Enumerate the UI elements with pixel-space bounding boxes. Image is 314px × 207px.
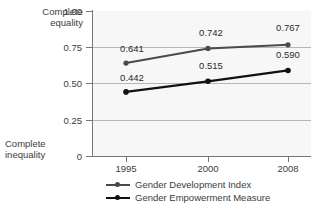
- y-tick-mark-025: [86, 120, 93, 121]
- x-axis-line: [92, 156, 311, 157]
- y-tick-mark-050: [86, 83, 93, 84]
- x-tick-mark-2008: [288, 157, 289, 162]
- gridline-025: [93, 120, 311, 121]
- legend-marker-gem-icon: [106, 193, 130, 203]
- y-tick-mark-100: [86, 11, 93, 12]
- gdi-value-label-2008: 0.767: [266, 22, 310, 33]
- legend-label-gdi: Gender Development Index: [135, 179, 251, 190]
- y-tick-mark-0: [86, 156, 93, 157]
- line-chart-figure: Complete equality Complete inequality 1.…: [0, 0, 314, 207]
- x-tick-label-2000: 2000: [183, 163, 233, 174]
- gridline-050: [93, 83, 311, 84]
- legend-item-gender-development-index[interactable]: Gender Development Index: [106, 178, 314, 191]
- x-tick-mark-2000: [208, 157, 209, 162]
- legend-label-gem: Gender Empowerment Measure: [135, 192, 270, 203]
- y-tick-label-050: 0.50: [46, 78, 82, 89]
- gem-value-label-2000: 0.515: [189, 60, 233, 71]
- x-tick-mark-1995: [126, 157, 127, 162]
- y-tick-label-025: 0.25: [46, 115, 82, 126]
- y-tick-mark-075: [86, 47, 93, 48]
- legend: Gender Development Index Gender Empowerm…: [106, 178, 314, 204]
- x-tick-label-1995: 1995: [101, 163, 151, 174]
- legend-item-gender-empowerment-measure[interactable]: Gender Empowerment Measure: [106, 191, 314, 204]
- gdi-value-label-1995: 0.641: [110, 43, 154, 54]
- y-tick-label-100: 1.00: [46, 6, 82, 17]
- y-tick-label-0: 0: [46, 151, 82, 162]
- y-tick-label-075: 0.75: [46, 42, 82, 53]
- gdi-value-label-2000: 0.742: [189, 27, 233, 38]
- legend-marker-gdi-icon: [106, 180, 130, 190]
- gem-value-label-1995: 0.442: [110, 72, 154, 83]
- gem-value-label-2008: 0.590: [266, 49, 310, 60]
- x-tick-label-2008: 2008: [263, 163, 313, 174]
